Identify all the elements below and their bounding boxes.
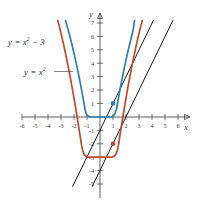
x-ticklabel-5: 5 [163, 122, 166, 129]
curve-label-base-parabola: y = x2 [24, 66, 46, 77]
y-ticklabel-5: 5 [91, 46, 94, 53]
curve-label-shifted-text: y = x2 − 3 [8, 37, 45, 47]
x-ticklabel--3: -3 [58, 122, 63, 129]
y-ticklabel-2: 2 [91, 86, 94, 93]
curve-label-shifted-parabola: y = x2 − 3 [8, 36, 45, 47]
x-ticklabel-1: 1 [111, 122, 114, 129]
x-axis-label: x [183, 123, 188, 132]
x-ticklabel-4: 4 [150, 122, 153, 129]
y-ticklabel-7: 7 [91, 19, 94, 26]
x-tick-labels: -6 -5 -4 -3 -2 -1 1 2 3 4 5 6 [19, 122, 179, 129]
y-ticklabel-3: 3 [91, 73, 94, 80]
x-ticklabel--6: -6 [19, 122, 24, 129]
x-ticklabel-3: 3 [137, 122, 140, 129]
x-ticklabel-6: 6 [176, 122, 179, 129]
tangent-line-shifted-parabola [92, 21, 173, 187]
axes-group [22, 13, 190, 198]
x-ticklabel--4: -4 [45, 122, 50, 129]
y-ticklabel--4: -4 [89, 167, 94, 174]
y-tick-labels: 7 6 5 4 3 2 1 -1 -2 -3 -4 -5 [89, 19, 94, 187]
y-axis-label: y [88, 10, 93, 19]
tangent-point-marker-base [111, 101, 116, 106]
x-ticklabel-2: 2 [124, 122, 127, 129]
coordinate-plot: -6 -5 -4 -3 -2 -1 1 2 3 4 5 6 7 6 5 4 3 … [0, 0, 203, 204]
tangent-point-marker-shifted [111, 142, 116, 147]
x-ticklabel--5: -5 [32, 122, 37, 129]
y-ticklabel-6: 6 [91, 33, 94, 40]
y-ticklabel-1: 1 [91, 100, 94, 107]
graph-figure: -6 -5 -4 -3 -2 -1 1 2 3 4 5 6 7 6 5 4 3 … [0, 0, 203, 204]
y-ticklabel-4: 4 [91, 60, 94, 67]
curve-label-base-text: y = x2 [24, 67, 46, 77]
x-ticklabel--2: -2 [71, 122, 76, 129]
y-ticklabel--1: -1 [89, 127, 94, 134]
